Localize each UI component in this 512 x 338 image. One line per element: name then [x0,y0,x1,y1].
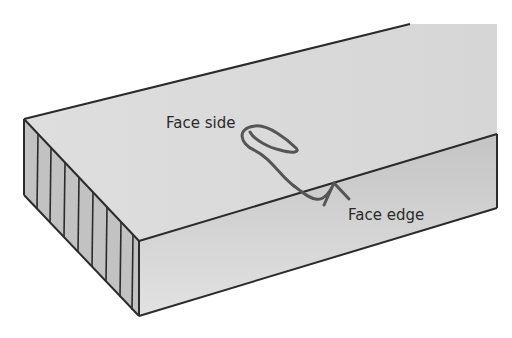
timber-board-diagram: Face side Face edge [0,0,512,338]
label-face-edge: Face edge [348,206,424,224]
label-face-side: Face side [166,114,235,132]
